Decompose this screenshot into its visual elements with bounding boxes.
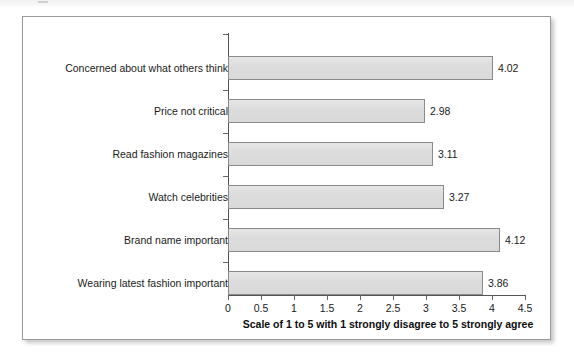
x-axis-tick [360,295,361,300]
x-axis-tick [393,295,394,300]
bar [228,271,483,295]
y-axis-tick [223,219,228,220]
y-axis-tick [223,133,228,134]
x-axis-line [228,295,526,296]
bar-value-label: 3.27 [449,191,469,203]
bar-value-label: 4.12 [505,234,525,246]
x-axis-tick-label: 4.5 [505,302,545,314]
category-label: Concerned about what others think [28,62,228,74]
category-label: Watch celebrities [28,191,228,203]
y-axis-tick [223,176,228,177]
category-label: Read fashion magazines [28,148,228,160]
chart-figure-frame: Concerned about what others think Price … [22,16,551,340]
y-axis-tick [223,262,228,263]
bar-value-label: 3.11 [438,148,458,160]
x-axis-title: Scale of 1 to 5 with 1 strongly disagree… [228,318,548,330]
x-axis-tick [426,295,427,300]
y-axis-tick [223,34,228,35]
bar [228,142,433,166]
category-label: Wearing latest fashion important [28,277,228,289]
scan-artifact-strip [0,0,574,8]
y-axis-tick [223,90,228,91]
bar [228,185,444,209]
scan-artifact-mark [38,1,48,3]
x-axis-tick [492,295,493,300]
bar [228,99,425,123]
x-axis-tick [525,295,526,300]
bar [228,228,500,252]
bar-value-label: 2.98 [430,105,450,117]
bar-chart-plot-area: Concerned about what others think Price … [23,17,552,341]
bar-value-label: 3.86 [488,277,508,289]
bar [228,56,493,80]
x-axis-tick [228,295,229,300]
category-label: Price not critical [28,105,228,117]
category-label: Brand name important [28,234,228,246]
x-axis-tick [261,295,262,300]
x-axis-tick [327,295,328,300]
x-axis-tick [459,295,460,300]
bar-value-label: 4.02 [498,62,518,74]
x-axis-tick [294,295,295,300]
